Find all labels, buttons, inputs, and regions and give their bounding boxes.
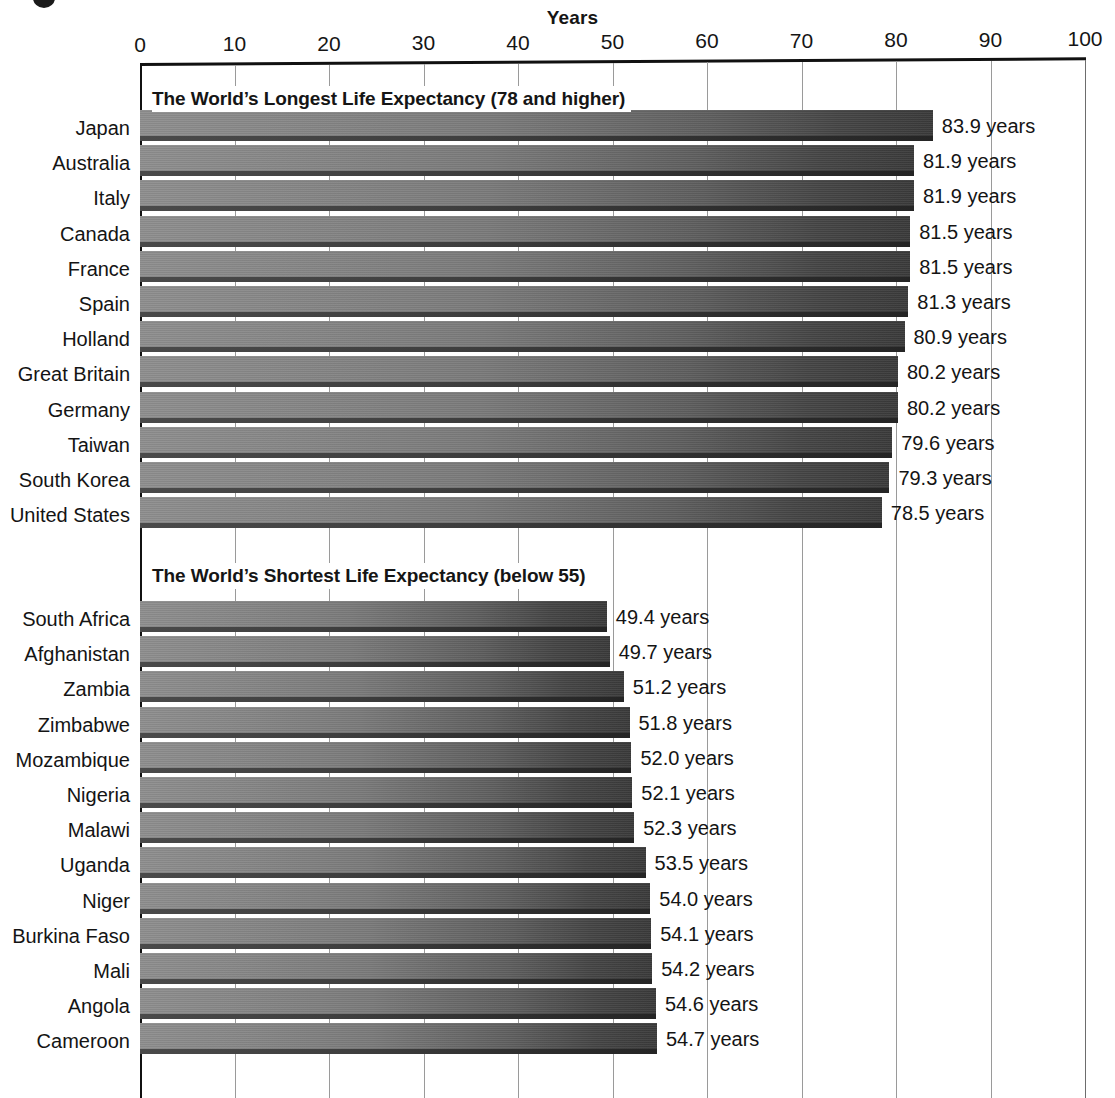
bar[interactable] [140, 918, 651, 950]
bar[interactable] [140, 497, 882, 529]
bar-value-label: 54.6 years [656, 991, 758, 1017]
bar-row[interactable]: Mozambique52.0 years [0, 742, 1115, 777]
bar[interactable] [140, 216, 910, 248]
bar-row-label: Nigeria [0, 782, 138, 808]
bar-shadow [140, 206, 914, 211]
bar[interactable] [140, 145, 914, 177]
bar-shadow [140, 838, 634, 843]
bar-row[interactable]: Angola54.6 years [0, 988, 1115, 1023]
bar-row[interactable]: Zambia51.2 years [0, 671, 1115, 706]
bar-row[interactable]: Zimbabwe51.8 years [0, 707, 1115, 742]
bar-value-label: 52.0 years [631, 745, 733, 771]
bar-row[interactable]: South Africa49.4 years [0, 601, 1115, 636]
bar-face [140, 180, 914, 206]
bar-shadow [140, 803, 632, 808]
bar-shadow [140, 488, 889, 493]
x-tick-label: 70 [790, 29, 813, 53]
bar-face [140, 321, 905, 347]
bar-face [140, 883, 650, 909]
bar[interactable] [140, 1023, 657, 1055]
bar-shadow [140, 909, 650, 914]
bar-value-label: 79.6 years [892, 430, 994, 456]
bar-value-label: 52.1 years [632, 780, 734, 806]
bar-row-label: Taiwan [0, 432, 138, 458]
bar[interactable] [140, 601, 607, 633]
bar-shadow [140, 944, 651, 949]
bar-face [140, 988, 656, 1014]
bar-row[interactable]: Holland80.9 years [0, 321, 1115, 356]
bar[interactable] [140, 988, 656, 1020]
bar-row[interactable]: Australia81.9 years [0, 145, 1115, 180]
bar[interactable] [140, 742, 631, 774]
bar-shadow [140, 523, 882, 528]
bar[interactable] [140, 777, 632, 809]
bar-row-label: Holland [0, 326, 138, 352]
bar-face [140, 286, 908, 312]
bar-value-label: 49.7 years [610, 639, 712, 665]
bar[interactable] [140, 636, 610, 668]
bar[interactable] [140, 286, 908, 318]
bar-row[interactable]: Burkina Faso54.1 years [0, 918, 1115, 953]
bar[interactable] [140, 321, 905, 353]
bar[interactable] [140, 812, 634, 844]
bar[interactable] [140, 847, 646, 879]
bar-value-label: 54.0 years [650, 886, 752, 912]
bar-row-label: France [0, 256, 138, 282]
bar-row-label: South Africa [0, 606, 138, 632]
bar-row[interactable]: Niger54.0 years [0, 883, 1115, 918]
bar-face [140, 671, 624, 697]
bar-row[interactable]: Uganda53.5 years [0, 847, 1115, 882]
bar-value-label: 54.2 years [652, 956, 754, 982]
bar-face [140, 742, 631, 768]
bar-row[interactable]: Malawi52.3 years [0, 812, 1115, 847]
bar-row[interactable]: South Korea79.3 years [0, 462, 1115, 497]
bar[interactable] [140, 251, 910, 283]
bar-row[interactable]: Taiwan79.6 years [0, 427, 1115, 462]
bar-row[interactable]: Nigeria52.1 years [0, 777, 1115, 812]
bar-face [140, 636, 610, 662]
bar-shadow [140, 1014, 656, 1019]
bar-value-label: 81.5 years [910, 219, 1012, 245]
bar-row[interactable]: France81.5 years [0, 251, 1115, 286]
bar-row[interactable]: Canada81.5 years [0, 216, 1115, 251]
bar-row-label: Mali [0, 958, 138, 984]
bar-row-label: Cameroon [0, 1028, 138, 1054]
bar-row-label: Afghanistan [0, 641, 138, 667]
bar-row[interactable]: Germany80.2 years [0, 392, 1115, 427]
bar-row-label: Zimbabwe [0, 712, 138, 738]
bar-face [140, 918, 651, 944]
bar-row[interactable]: United States78.5 years [0, 497, 1115, 532]
bar-row[interactable]: Italy81.9 years [0, 180, 1115, 215]
bar-row-label: United States [0, 502, 138, 528]
bar[interactable] [140, 953, 652, 985]
x-tick-label: 0 [134, 33, 146, 57]
bar[interactable] [140, 671, 624, 703]
bar-row-label: Angola [0, 993, 138, 1019]
plot-area: 0102030405060708090100 The World’s Longe… [0, 0, 1115, 1098]
bar[interactable] [140, 462, 889, 494]
bar[interactable] [140, 883, 650, 915]
bar-value-label: 81.5 years [910, 254, 1012, 280]
bar[interactable] [140, 707, 630, 739]
bar-value-label: 51.2 years [624, 674, 726, 700]
bar-row[interactable]: Cameroon54.7 years [0, 1023, 1115, 1058]
bar-face [140, 953, 652, 979]
bar-row[interactable]: Great Britain80.2 years [0, 356, 1115, 391]
bar-face [140, 777, 632, 803]
x-tick-label: 10 [223, 32, 246, 56]
bar-row[interactable]: Japan83.9 years [0, 110, 1115, 145]
bar[interactable] [140, 392, 898, 424]
bar[interactable] [140, 356, 898, 388]
bar-value-label: 54.7 years [657, 1026, 759, 1052]
bar-face [140, 392, 898, 418]
bar-row[interactable]: Afghanistan49.7 years [0, 636, 1115, 671]
bar-row[interactable]: Mali54.2 years [0, 953, 1115, 988]
bar[interactable] [140, 180, 914, 212]
bar-row[interactable]: Spain81.3 years [0, 286, 1115, 321]
bar-face [140, 427, 892, 453]
bar-shadow [140, 347, 905, 352]
bar[interactable] [140, 427, 892, 459]
bar-shadow [140, 242, 910, 247]
bar[interactable] [140, 110, 933, 142]
bar-row-label: Japan [0, 115, 138, 141]
